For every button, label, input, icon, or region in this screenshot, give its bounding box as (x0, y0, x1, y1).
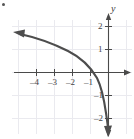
x-tick-label--2: –2 (66, 78, 75, 87)
x-tick-label--1: –1 (84, 78, 93, 87)
y-tick-label-1: 1 (98, 45, 103, 54)
y-tick-label--2: –2 (94, 114, 103, 123)
coordinate-plane (0, 0, 134, 139)
y-tick-label--1: –1 (94, 91, 103, 100)
x-axis-right-arrow (124, 70, 131, 76)
y-axis-label: y (111, 4, 115, 14)
x-tick-label--3: –3 (48, 78, 57, 87)
axes (14, 16, 126, 133)
y-tick-label-2: 2 (98, 22, 103, 31)
graph-figure: –4 –3 –2 –1 2 1 –1 –2 y (0, 0, 134, 139)
y-axis-up-arrow (106, 13, 111, 20)
x-tick-label--4: –4 (30, 78, 39, 87)
curve-down-arrow (104, 126, 112, 138)
